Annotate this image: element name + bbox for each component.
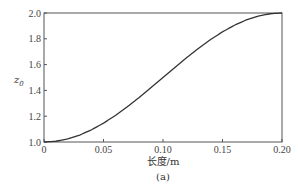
y-tick-label: 1.0 bbox=[29, 137, 42, 148]
x-axis-title: 长度/m bbox=[147, 155, 180, 167]
data-series bbox=[44, 13, 282, 142]
y-tick-label: 1.2 bbox=[29, 111, 42, 122]
y-tick-label: 1.8 bbox=[29, 33, 42, 44]
x-axis-ticks: 00.050.100.150.20 bbox=[42, 139, 291, 155]
x-tick-label: 0.15 bbox=[214, 144, 232, 155]
x-tick-label: 0.20 bbox=[273, 144, 291, 155]
x-tick-label: 0.10 bbox=[154, 144, 172, 155]
x-tick-label: 0 bbox=[42, 144, 47, 155]
x-tick-label: 0.05 bbox=[95, 144, 113, 155]
y-tick-label: 2.0 bbox=[29, 8, 42, 19]
y-axis-title: z0 bbox=[13, 74, 24, 88]
line-chart: 1.01.21.41.61.82.0 00.050.100.150.20 z0 … bbox=[0, 0, 298, 187]
figure-caption: (a) bbox=[156, 171, 170, 182]
y-axis-title-subscript: 0 bbox=[19, 80, 24, 88]
series-line-z0 bbox=[44, 13, 282, 142]
y-tick-label: 1.4 bbox=[29, 85, 42, 96]
y-tick-label: 1.6 bbox=[29, 59, 42, 70]
